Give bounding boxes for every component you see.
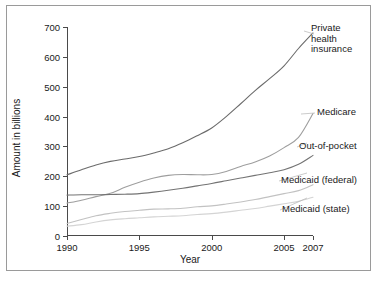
y-tick-label: 100: [44, 201, 60, 212]
series-line: [67, 155, 313, 195]
series-lines: [67, 27, 313, 236]
series-line: [67, 114, 313, 204]
series-label: Private health insurance: [311, 23, 352, 55]
x-tick-mark: [212, 236, 213, 240]
x-tick-label: 2007: [302, 242, 323, 253]
y-tick-label: 200: [44, 171, 60, 182]
series-line: [67, 197, 313, 226]
x-tick-label: 2000: [201, 242, 222, 253]
y-tick-label: 400: [44, 111, 60, 122]
y-tick-label: 0: [55, 231, 60, 242]
series-label: Medicaid (federal): [281, 175, 357, 186]
x-tick-label: 1990: [56, 242, 77, 253]
x-axis-label: Year: [67, 254, 313, 265]
series-label: Out-of-pocket: [299, 141, 357, 152]
x-tick-mark: [313, 236, 314, 240]
x-tick-label: 2005: [273, 242, 294, 253]
series-line: [67, 33, 313, 175]
y-tick-label: 700: [44, 22, 60, 33]
x-tick-mark: [67, 236, 68, 240]
y-tick-label: 300: [44, 141, 60, 152]
y-tick-label: 500: [44, 81, 60, 92]
plot-area: 0100200300400500600700 19901995200020052…: [67, 27, 313, 236]
chart-figure: Amount in billions Year 0100200300400500…: [6, 5, 371, 271]
x-tick-label: 1995: [129, 242, 150, 253]
series-label: Medicaid (state): [282, 204, 350, 215]
y-axis-label: Amount in billions: [11, 99, 22, 177]
series-line: [67, 185, 313, 224]
y-tick-label: 600: [44, 51, 60, 62]
series-label: Medicare: [317, 107, 356, 118]
x-tick-mark: [284, 236, 285, 240]
x-tick-mark: [139, 236, 140, 240]
